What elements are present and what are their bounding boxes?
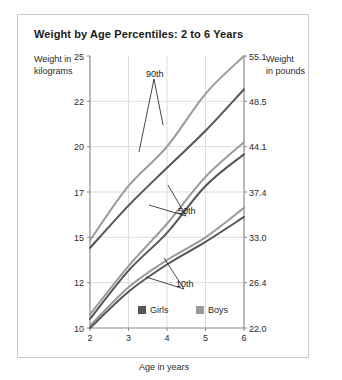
y-tick-label-left: 12	[74, 278, 84, 288]
x-tick-label: 2	[87, 333, 92, 343]
legend-label: Boys	[208, 305, 229, 315]
gridlines	[90, 56, 244, 328]
y-tick-label-left: 20	[74, 142, 84, 152]
annotation-leader-line	[154, 79, 163, 125]
x-tick-label: 6	[241, 333, 246, 343]
legend-swatch	[196, 306, 204, 314]
x-axis-title: Age in years	[18, 362, 310, 372]
y-tick-label-right: 48.5	[249, 97, 267, 107]
annotation-label: 50th	[178, 206, 196, 216]
x-axis-ticks: 23456	[87, 328, 246, 343]
legend-label: Girls	[150, 305, 169, 315]
y-tick-label-right: 44.1	[249, 142, 267, 152]
x-tick-label: 5	[203, 333, 208, 343]
y-tick-label-right: 26.4	[249, 278, 267, 288]
y-tick-label-left: 22	[74, 97, 84, 107]
chart-legend: GirlsBoys	[138, 305, 229, 315]
annotation-label: 10th	[176, 279, 194, 289]
y-tick-label-left: 10	[74, 324, 84, 334]
chart-figure: Weight by Age Percentiles: 2 to 6 Years …	[17, 14, 309, 358]
y-tick-label-left: 25	[74, 52, 84, 62]
y-tick-label-right: 37.4	[249, 188, 267, 198]
y-tick-label-left: 17	[74, 188, 84, 198]
y-axis-ticks-right: 22.026.433.037.444.148.555.1	[244, 52, 267, 334]
chart-canvas: 10121517202225 22.026.433.037.444.148.55…	[18, 15, 310, 359]
legend-swatch	[138, 306, 146, 314]
y-tick-label-right: 33.0	[249, 233, 267, 243]
annotation-label: 90th	[146, 69, 164, 79]
x-tick-label: 4	[164, 333, 169, 343]
y-tick-label-left: 15	[74, 233, 84, 243]
y-tick-label-right: 55.1	[249, 52, 267, 62]
annotation-leader-line	[139, 79, 154, 152]
y-tick-label-right: 22.0	[249, 324, 267, 334]
y-axis-ticks-left: 10121517202225	[74, 52, 90, 334]
x-tick-label: 3	[126, 333, 131, 343]
